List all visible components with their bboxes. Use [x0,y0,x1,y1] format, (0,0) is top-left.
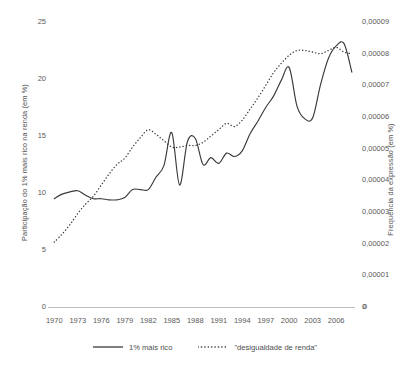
legend-item-dotted: "desigualdade de renda" [198,343,317,352]
chart-container: Participação do 1% mais rico na renda (e… [0,0,410,365]
chart-legend: 1% mais rico "desigualdade de renda" [0,337,410,357]
legend-label-solid: 1% mais rico [129,343,172,352]
series-line-desigualdade [54,47,352,242]
legend-label-dotted: "desigualdade de renda" [234,343,317,352]
legend-item-solid: 1% mais rico [93,343,172,352]
plot-area [0,0,410,365]
legend-swatch-dotted-icon [198,343,228,351]
series-line-1-percent [54,42,352,200]
legend-swatch-solid-icon [93,343,123,351]
